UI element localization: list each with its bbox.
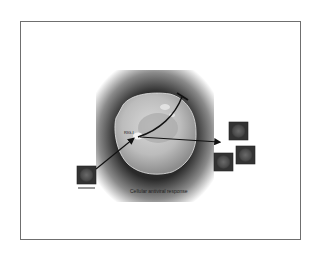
virion-icon bbox=[77, 166, 96, 184]
virion-icon bbox=[236, 146, 255, 164]
virion-icon bbox=[229, 122, 248, 140]
protein-label: RIG-I bbox=[124, 130, 134, 135]
cell-organelle bbox=[160, 104, 170, 110]
virion-label-mark bbox=[78, 187, 95, 189]
figure-caption: Cellular antiviral response bbox=[130, 188, 188, 194]
antiviral-diagram: RIG-I Virus particle Cellular antiviral … bbox=[0, 0, 319, 256]
virion-icon bbox=[214, 153, 233, 171]
